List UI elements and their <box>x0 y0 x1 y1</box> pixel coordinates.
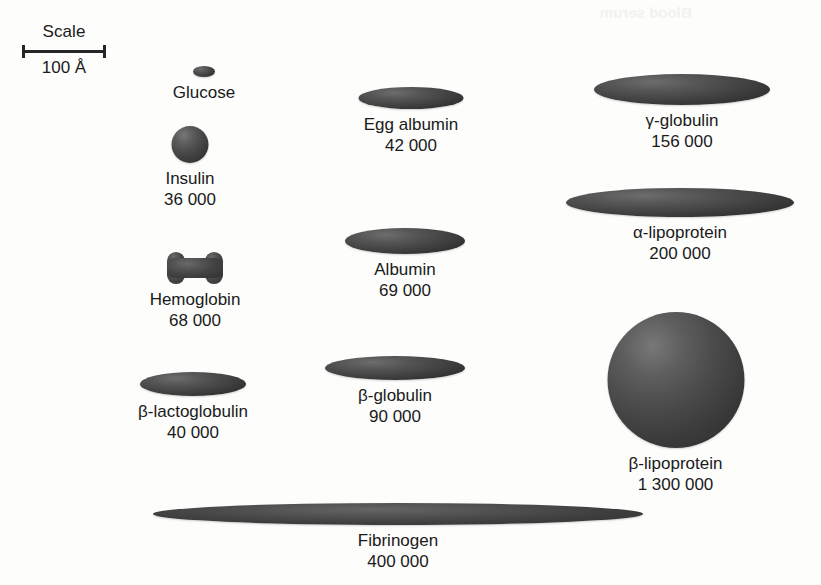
fibrinogen-mass: 400 000 <box>153 551 643 572</box>
molecule-albumin: Albumin 69 000 <box>327 228 483 301</box>
page-showthrough-text: Blood serum <box>600 4 692 21</box>
molecule-beta-lactoglobulin: β-lactoglobulin 40 000 <box>110 372 276 443</box>
molecule-insulin: Insulin 36 000 <box>120 126 260 210</box>
scale-rule-graphic <box>18 45 110 57</box>
hemoglobin-shape <box>110 252 280 284</box>
molecule-egg-albumin: Egg albumin 42 000 <box>333 87 489 156</box>
fibrinogen-blob <box>153 503 643 525</box>
hemoglobin-core <box>167 258 223 278</box>
beta-globulin-mass: 90 000 <box>317 406 473 427</box>
insulin-blob <box>172 126 209 163</box>
molecule-fibrinogen: Fibrinogen 400 000 <box>153 503 643 572</box>
fibrinogen-label: Fibrinogen <box>153 530 643 551</box>
fibrinogen-shape <box>153 503 643 525</box>
egg-albumin-label: Egg albumin <box>333 114 489 135</box>
albumin-label: Albumin <box>327 259 483 280</box>
molecule-glucose: Glucose <box>145 66 263 103</box>
scale-cap-right <box>103 45 106 58</box>
albumin-mass: 69 000 <box>327 280 483 301</box>
molecule-beta-globulin: β-globulin 90 000 <box>317 356 473 427</box>
glucose-shape <box>145 66 263 77</box>
egg-albumin-mass: 42 000 <box>333 135 489 156</box>
glucose-label: Glucose <box>145 82 263 103</box>
beta-lactoglobulin-label: β-lactoglobulin <box>110 401 276 422</box>
hemoglobin-lobes <box>167 252 223 284</box>
beta-globulin-label: β-globulin <box>317 385 473 406</box>
beta-globulin-shape <box>317 356 473 380</box>
scale-bar: Scale 100 Å <box>18 22 110 78</box>
beta-lipoprotein-label: β-lipoprotein <box>607 453 744 474</box>
protein-size-diagram: Blood serum Scale 100 Å Glucose Insulin … <box>0 0 821 585</box>
egg-albumin-shape <box>333 87 489 109</box>
alpha-lipoprotein-label: α-lipoprotein <box>566 222 794 243</box>
albumin-shape <box>327 228 483 254</box>
molecule-hemoglobin: Hemoglobin 68 000 <box>110 252 280 331</box>
beta-lipoprotein-shape <box>607 312 744 448</box>
beta-lactoglobulin-blob <box>140 372 246 396</box>
beta-globulin-blob <box>325 356 465 380</box>
molecule-gamma-globulin: γ-globulin 156 000 <box>594 74 770 152</box>
molecule-beta-lipoprotein: β-lipoprotein 1 300 000 <box>607 312 744 495</box>
insulin-shape <box>120 126 260 163</box>
gamma-globulin-label: γ-globulin <box>594 110 770 131</box>
scale-title: Scale <box>18 22 110 42</box>
alpha-lipoprotein-mass: 200 000 <box>566 243 794 264</box>
insulin-mass: 36 000 <box>120 189 260 210</box>
scale-line <box>22 50 106 53</box>
albumin-blob <box>345 228 465 254</box>
gamma-globulin-mass: 156 000 <box>594 131 770 152</box>
beta-lipoprotein-mass: 1 300 000 <box>607 474 744 495</box>
beta-lipoprotein-blob <box>607 312 744 448</box>
molecule-alpha-lipoprotein: α-lipoprotein 200 000 <box>566 188 794 264</box>
gamma-globulin-shape <box>594 74 770 105</box>
gamma-globulin-blob <box>594 74 770 105</box>
scale-value: 100 Å <box>18 58 110 78</box>
beta-lactoglobulin-shape <box>110 372 276 396</box>
egg-albumin-blob <box>359 87 464 109</box>
alpha-lipoprotein-blob <box>566 188 794 217</box>
alpha-lipoprotein-shape <box>566 188 794 217</box>
beta-lactoglobulin-mass: 40 000 <box>110 422 276 443</box>
glucose-blob <box>193 66 215 77</box>
hemoglobin-label: Hemoglobin <box>110 289 280 310</box>
hemoglobin-mass: 68 000 <box>110 310 280 331</box>
insulin-label: Insulin <box>120 168 260 189</box>
